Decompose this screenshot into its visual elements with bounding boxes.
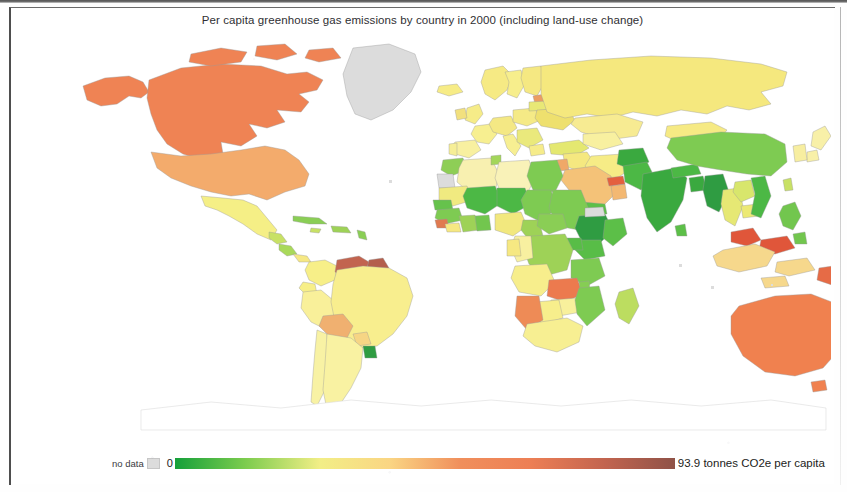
- region-western-sahara: [437, 174, 455, 188]
- legend-no-data-label: no data: [112, 458, 144, 469]
- region-mozambique: [575, 286, 605, 326]
- region-eritrea-djibouti: [585, 207, 605, 217]
- region-egypt: [527, 160, 563, 192]
- region-hispaniola: [331, 226, 351, 233]
- scan-top-rule: [0, 0, 847, 3]
- legend-min-value-label: 0: [167, 457, 173, 469]
- region-panama: [293, 254, 311, 262]
- region-united-states: [151, 146, 309, 200]
- region-lesser-antilles: [357, 230, 367, 240]
- region-antarctica: [141, 400, 826, 430]
- region-central-asia: [583, 132, 623, 150]
- region-canada: [147, 64, 323, 160]
- region-cuba: [293, 216, 327, 224]
- region-colombia: [305, 260, 337, 286]
- page-title: Per capita greenhouse gas emissions by c…: [11, 14, 834, 26]
- legend-row: no data 0 93.9 tonnes CO2e per capita: [112, 455, 825, 471]
- region-madagascar: [615, 288, 639, 324]
- region-liberia: [445, 223, 461, 232]
- region-australia: [731, 294, 831, 376]
- region-south-africa: [523, 318, 583, 352]
- region-uruguay: [363, 346, 377, 358]
- region-russia: [541, 56, 787, 118]
- region-korea: [793, 144, 807, 162]
- region-tasmania: [811, 380, 827, 392]
- legend-max-value-label: 93.9 tonnes CO2e per capita: [678, 457, 825, 469]
- color-scale-legend: no data 0 93.9 tonnes CO2e per capita: [11, 452, 834, 476]
- world-choropleth-map: [71, 34, 831, 432]
- region-taiwan: [783, 178, 793, 191]
- region-greenland: [343, 44, 421, 120]
- region-guatemala-honduras: [269, 232, 287, 244]
- region-canada-arctic-islands: [189, 44, 341, 66]
- region-nepal-bhutan: [671, 164, 701, 178]
- region-oman: [611, 184, 627, 200]
- region-india: [641, 168, 687, 232]
- legend-gradient-bar: [175, 458, 675, 469]
- region-ireland: [455, 108, 467, 120]
- region-greece: [529, 144, 545, 156]
- legend-no-data-swatch: [147, 458, 160, 469]
- region-ghana: [475, 215, 491, 231]
- region-mexico: [201, 196, 277, 240]
- region-iceland: [437, 84, 463, 96]
- region-somalia: [603, 218, 627, 246]
- region-japan: [807, 126, 831, 162]
- region-alaska: [83, 76, 149, 106]
- region-senegal-gambia: [433, 200, 453, 210]
- map-svg: [71, 34, 831, 432]
- region-norway: [481, 66, 513, 100]
- region-argentina: [323, 334, 363, 410]
- region-gabon: [507, 239, 521, 256]
- region-sri-lanka: [675, 224, 687, 236]
- region-uae-qatar: [607, 176, 625, 186]
- map-landmasses: [83, 44, 831, 430]
- region-indonesia: [713, 244, 815, 288]
- region-jamaica: [310, 228, 321, 233]
- figure-container: Per capita greenhouse gas emissions by c…: [11, 8, 834, 484]
- region-papua-new-guinea: [817, 264, 831, 286]
- region-portugal: [449, 143, 457, 156]
- region-united-kingdom: [465, 104, 483, 124]
- region-vietnam: [751, 176, 771, 218]
- figure-frame-right-edge: [840, 7, 841, 485]
